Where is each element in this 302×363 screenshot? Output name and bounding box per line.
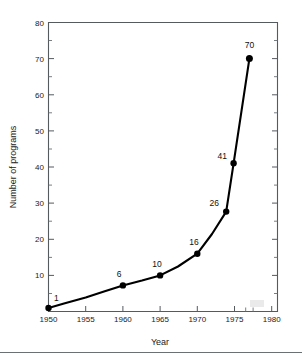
- data-label-16: 16: [189, 237, 199, 247]
- data-label-10: 10: [152, 259, 162, 269]
- y-axis-major-ticks: [49, 23, 55, 312]
- right-axis-ticks: [272, 23, 278, 294]
- x-tick-label-1975: 1975: [226, 315, 244, 324]
- x-axis-ticks: [49, 306, 272, 312]
- y-tick-label-50: 50: [35, 127, 44, 136]
- x-tick-label-1960: 1960: [114, 315, 132, 324]
- y-tick-labels: 80 70 60 50 40 30 20 10: [35, 19, 44, 281]
- data-point-1979[interactable]: [246, 55, 253, 62]
- data-point-1970[interactable]: [194, 251, 200, 257]
- scan-artifact: [250, 300, 264, 307]
- x-tick-label-1970: 1970: [188, 315, 206, 324]
- data-point-1960[interactable]: [120, 282, 126, 288]
- x-tick-label-1955: 1955: [77, 315, 95, 324]
- data-markers: [45, 55, 253, 311]
- x-tick-label-1980: 1980: [263, 315, 281, 324]
- x-tick-labels: 1950 1955 1960 1965 1970 1975 1980: [40, 315, 282, 324]
- y-axis-title: Number of programs: [8, 125, 18, 208]
- data-series-line: [49, 59, 250, 308]
- y-tick-label-70: 70: [35, 55, 44, 64]
- y-tick-label-60: 60: [35, 91, 44, 100]
- data-label-26: 26: [210, 198, 220, 208]
- x-tick-label-1950: 1950: [40, 315, 58, 324]
- x-axis-title: Year: [151, 337, 169, 347]
- y-tick-label-80: 80: [35, 19, 44, 28]
- data-point-1977[interactable]: [230, 160, 236, 166]
- y-tick-label-20: 20: [35, 235, 44, 244]
- data-point-1965[interactable]: [157, 272, 163, 278]
- data-label-70: 70: [245, 40, 255, 50]
- data-point-1950[interactable]: [45, 305, 51, 311]
- data-label-6: 6: [117, 269, 122, 279]
- y-tick-label-30: 30: [35, 199, 44, 208]
- axes-frame: [49, 23, 278, 312]
- line-chart: 80 70 60 50 40 30 20 10 1950 1955 1960 1…: [0, 0, 302, 363]
- data-point-labels: 1 6 10 16 26 41 70: [54, 40, 254, 303]
- x-tick-label-1965: 1965: [151, 315, 169, 324]
- data-label-41: 41: [218, 151, 228, 161]
- y-tick-label-10: 10: [35, 271, 44, 280]
- y-tick-label-40: 40: [35, 163, 44, 172]
- data-label-1: 1: [54, 293, 59, 303]
- figure-container: 80 70 60 50 40 30 20 10 1950 1955 1960 1…: [0, 0, 302, 363]
- plot-spines: [49, 23, 278, 312]
- data-point-1976[interactable]: [223, 208, 229, 214]
